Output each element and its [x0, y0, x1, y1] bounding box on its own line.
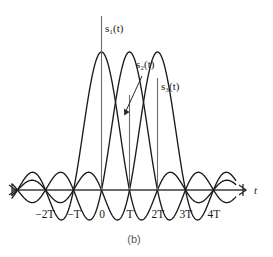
series-label-s2: s₂(t) [136, 58, 155, 71]
x-tick-label: 2T [152, 208, 165, 220]
x-tick-label: 4T [208, 208, 221, 220]
sinc-pulse-figure: s₁(t) s₂(t) s₃(t) t −2T −T 0 T 2T 3T 4T … [0, 0, 273, 257]
curve-s3 [12, 52, 236, 220]
x-tick-label: T [126, 208, 133, 220]
x-tick-label: 3T [180, 208, 193, 220]
series-label-s3: s₃(t) [161, 80, 180, 93]
curve-s2 [12, 52, 236, 220]
x-tick-label: −2T [35, 208, 54, 220]
x-tick-label: 0 [99, 208, 105, 220]
figure-caption: (b) [127, 233, 140, 245]
plot-canvas: s₁(t) s₂(t) s₃(t) t −2T −T 0 T 2T 3T 4T … [0, 0, 273, 257]
x-tick-label: −T [67, 208, 81, 220]
s2-leader-line [126, 76, 143, 112]
curve-s1 [12, 52, 236, 220]
curves-group [12, 52, 236, 220]
x-axis-label: t [254, 184, 258, 196]
s2-leader-group [124, 76, 142, 116]
series-label-s1: s₁(t) [105, 22, 124, 35]
